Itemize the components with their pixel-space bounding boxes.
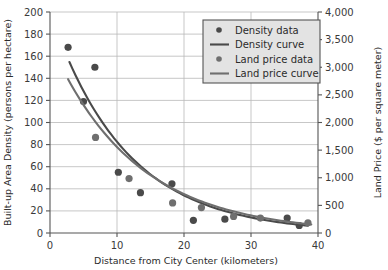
- legend-item-label: Land price curve: [235, 68, 319, 79]
- data-point: [221, 216, 228, 223]
- scatter-chart: 02040608010012014016018020005001,0001,50…: [0, 0, 388, 270]
- y-axis-right-tick-label: 2,000: [325, 117, 354, 128]
- data-point: [137, 189, 144, 196]
- data-point: [91, 64, 98, 71]
- y-axis-right-tick-label: 500: [325, 200, 344, 211]
- y-axis-left-tick-label: 120: [24, 95, 43, 106]
- y-axis-left-tick-label: 80: [30, 139, 43, 150]
- data-point: [125, 175, 132, 182]
- legend-marker-dot: [216, 56, 222, 62]
- y-axis-left-tick-label: 140: [24, 73, 43, 84]
- y-axis-left-tick-label: 200: [24, 7, 43, 18]
- y-axis-left-tick-label: 0: [37, 228, 43, 239]
- chart-container: 02040608010012014016018020005001,0001,50…: [0, 0, 388, 270]
- y-axis-left-tick-label: 100: [24, 117, 43, 128]
- data-point: [92, 134, 99, 141]
- data-point: [198, 204, 205, 211]
- y-axis-right-tick-label: 3,000: [325, 62, 354, 73]
- y-axis-right-tick-label: 1,500: [325, 145, 354, 156]
- data-point: [230, 213, 237, 220]
- x-axis-tick-label: 30: [245, 240, 258, 251]
- data-point: [190, 217, 197, 224]
- y-axis-right-tick-label: 1,000: [325, 172, 354, 183]
- y-axis-left-tick-label: 40: [30, 183, 43, 194]
- data-point: [115, 169, 122, 176]
- y-axis-left-title: Built-up Area Density (persons per hecta…: [2, 19, 13, 226]
- legend-marker-dot: [216, 27, 222, 33]
- x-axis-title: Distance from City Center (kilometers): [94, 255, 278, 266]
- y-axis-right-tick-label: 0: [325, 228, 331, 239]
- data-point: [64, 44, 71, 51]
- x-axis-tick-label: 20: [178, 240, 191, 251]
- data-point: [169, 199, 176, 206]
- x-axis-tick-label: 10: [111, 240, 124, 251]
- x-axis-tick-label: 0: [47, 240, 53, 251]
- legend-item-label: Density curve: [235, 39, 304, 50]
- y-axis-left-tick-label: 60: [30, 161, 43, 172]
- y-axis-right-tick-label: 4,000: [325, 7, 354, 18]
- y-axis-right-tick-label: 3,500: [325, 34, 354, 45]
- y-axis-left-tick-label: 180: [24, 29, 43, 40]
- y-axis-right-title: Land Price ($ per square meter): [372, 47, 383, 199]
- x-axis-tick-label: 40: [312, 240, 325, 251]
- y-axis-left-tick-label: 20: [30, 205, 43, 216]
- y-axis-right-tick-label: 2,500: [325, 89, 354, 100]
- legend-item-label: Density data: [235, 25, 299, 36]
- legend-item-label: Land price data: [235, 54, 313, 65]
- legend: Density dataDensity curveLand price data…: [203, 20, 320, 83]
- y-axis-left-tick-label: 160: [24, 51, 43, 62]
